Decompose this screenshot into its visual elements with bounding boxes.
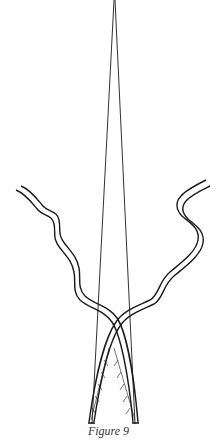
- left-strand: [16, 186, 138, 422]
- converging-lines: [92, 0, 135, 424]
- figure-9-diagram: [0, 0, 217, 443]
- right-strand: [89, 180, 210, 422]
- figure-caption: Figure 9: [0, 424, 217, 439]
